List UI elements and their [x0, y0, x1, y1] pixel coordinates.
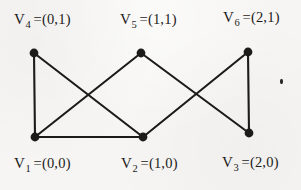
graph-vertex-v5 — [137, 49, 146, 58]
vertex-coord-v6: =(2,1) — [243, 9, 280, 25]
vertex-subscript-v6: 6 — [234, 17, 242, 28]
scan-speck-artifact — [280, 79, 283, 84]
vertex-coord-v1: =(0,0) — [34, 155, 71, 171]
vertex-subscript-v3: 3 — [233, 162, 241, 173]
graph-vertex-v2 — [139, 133, 148, 142]
vertex-subscript-v1: 1 — [25, 163, 33, 174]
vertex-coord-v3: =(2,0) — [242, 154, 279, 170]
vertex-coord-v2: =(1,0) — [141, 155, 178, 171]
vertex-label-v3: V3=(2,0) — [222, 155, 279, 174]
graph-vertex-v6 — [244, 48, 253, 57]
vertex-coord-v4: =(0,1) — [34, 11, 71, 27]
vertex-label-v1: V1=(0,0) — [14, 156, 71, 175]
vertex-name-v4: V — [14, 11, 25, 27]
graph-edge-v4-v1 — [34, 53, 35, 137]
vertex-layer — [30, 48, 254, 142]
vertex-coord-v5: =(1,1) — [140, 11, 177, 27]
vertex-subscript-v5: 5 — [131, 19, 139, 30]
vertex-name-v2: V — [121, 155, 132, 171]
graph-edge-v6-v3 — [248, 52, 249, 133]
graph-vertex-v1 — [31, 133, 40, 142]
vertex-label-v5: V5=(1,1) — [120, 12, 177, 31]
graph-vertex-v3 — [245, 129, 254, 138]
vertex-name-v3: V — [222, 154, 233, 170]
vertex-label-v6: V6=(2,1) — [223, 10, 280, 29]
graph-vertex-v4 — [30, 49, 39, 58]
vertex-name-v6: V — [223, 9, 234, 25]
graph-edge-v6-v2 — [143, 52, 248, 137]
vertex-label-v4: V4=(0,1) — [14, 12, 71, 31]
vertex-subscript-v4: 4 — [25, 19, 33, 30]
vertex-name-v1: V — [14, 155, 25, 171]
vertex-label-v2: V2=(1,0) — [121, 156, 178, 175]
edge-layer — [34, 52, 249, 137]
figure-canvas: V4=(0,1) V5=(1,1) V6=(2,1) V1=(0,0) V2=(… — [0, 0, 301, 190]
vertex-subscript-v2: 2 — [132, 163, 140, 174]
vertex-name-v5: V — [120, 11, 131, 27]
